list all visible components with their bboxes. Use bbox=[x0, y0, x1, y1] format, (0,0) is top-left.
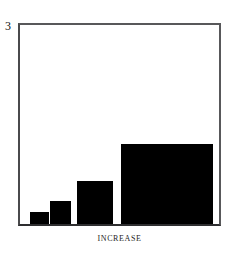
plot-area bbox=[20, 25, 219, 224]
bar-chart-figure: 3 INCREASE bbox=[0, 0, 238, 258]
bar-4 bbox=[121, 144, 213, 224]
plot-frame bbox=[18, 23, 221, 226]
x-axis-caption: INCREASE bbox=[18, 234, 221, 243]
bar-2 bbox=[50, 201, 71, 224]
bar-3 bbox=[77, 181, 113, 224]
bar-1 bbox=[30, 212, 50, 224]
y-axis-max-label: 3 bbox=[5, 20, 11, 32]
